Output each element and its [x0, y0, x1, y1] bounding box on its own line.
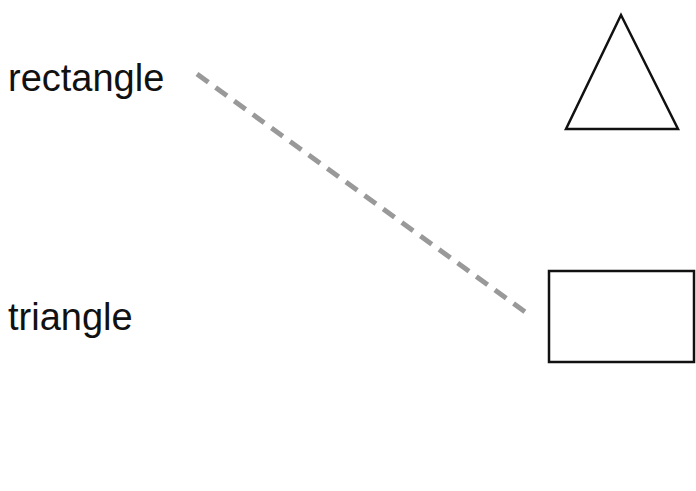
rectangle-shape — [549, 271, 694, 362]
diagram-canvas — [0, 0, 696, 491]
dashed-match-line — [197, 74, 528, 314]
triangle-shape — [566, 15, 678, 129]
